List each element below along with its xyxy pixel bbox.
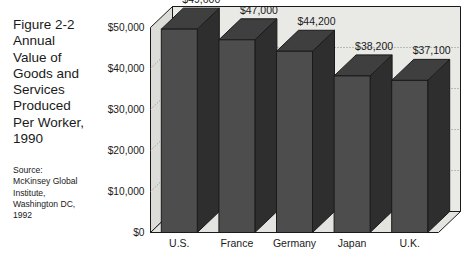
- y-axis-tick-label: $20,000: [108, 145, 145, 156]
- x-axis-category-label: Germany: [273, 237, 317, 249]
- bar-value-label: $47,000: [240, 4, 278, 16]
- figure-container: Figure 2-2 Annual Value of Goods and Ser…: [0, 0, 471, 271]
- x-axis-category-label: France: [221, 237, 254, 249]
- y-axis-tick-labels: $0$10,000$20,000$30,000$40,000$50,000: [108, 22, 145, 238]
- bar-value-label: $49,600: [182, 0, 220, 5]
- y-axis-tick-label: $40,000: [108, 63, 145, 74]
- bar-column: [392, 59, 450, 232]
- x-axis-category-label: U.K.: [399, 237, 419, 249]
- bar-value-label: $38,200: [355, 40, 393, 52]
- x-axis-category-label: Japan: [338, 237, 367, 249]
- bar-value-label: $44,200: [298, 15, 336, 27]
- bar-column: [334, 55, 392, 233]
- y-axis-tick-label: $30,000: [108, 104, 145, 115]
- bar-column: [219, 19, 277, 233]
- bar-column: [277, 30, 335, 232]
- x-axis-category-labels: U.S.FranceGermanyJapanU.K.: [169, 237, 420, 249]
- bar-value-label: $37,100: [413, 44, 451, 56]
- x-axis-category-label: U.S.: [169, 237, 189, 249]
- y-axis-tick-label: $0: [133, 227, 145, 238]
- y-axis-tick-label: $10,000: [108, 186, 145, 197]
- bar-chart: $0$10,000$20,000$30,000$40,000$50,000 $4…: [0, 0, 471, 271]
- bar-column: [161, 8, 219, 232]
- y-axis-tick-label: $50,000: [108, 22, 145, 33]
